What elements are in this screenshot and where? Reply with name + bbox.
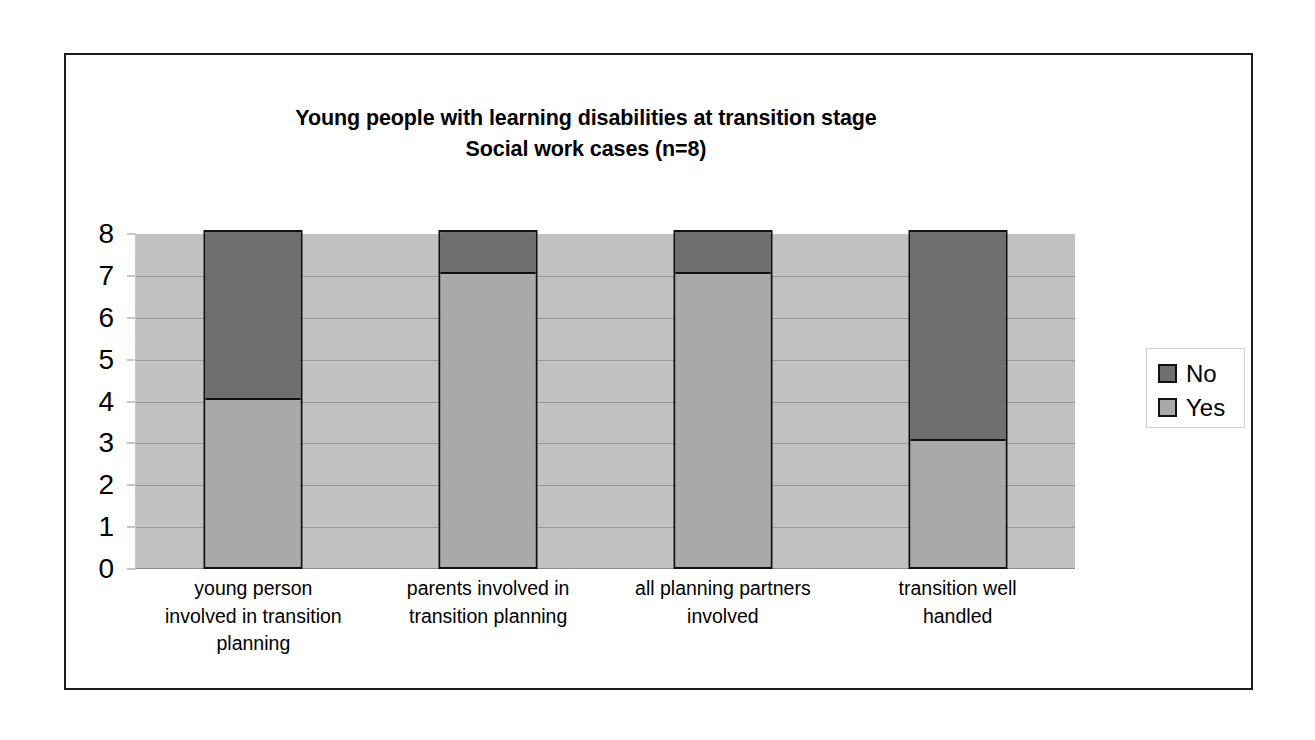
chart-title-line-1: Young people with learning disabilities …: [66, 103, 1106, 134]
x-axis-labels: young personinvolved in transitionplanni…: [136, 575, 1075, 675]
bar-slot: [136, 234, 371, 569]
legend-label: Yes: [1186, 396, 1225, 420]
x-axis-category-label-line: young person: [140, 575, 367, 603]
bar-stack[interactable]: [673, 230, 772, 569]
x-axis-category-label-line: parents involved in: [375, 575, 602, 603]
y-axis: 8 7 6 5 4 3 2 1 0: [66, 234, 136, 569]
bar-slot: [840, 234, 1075, 569]
bar-segment-yes[interactable]: [675, 274, 770, 567]
bar-segment-no[interactable]: [675, 232, 770, 274]
bar-slot: [371, 234, 606, 569]
bar-segment-no[interactable]: [206, 232, 301, 400]
y-tick-label: 0: [98, 555, 114, 583]
chart-title: Young people with learning disabilities …: [66, 103, 1106, 164]
y-tick-label: 5: [98, 346, 114, 374]
x-axis-category-label-line: involved: [610, 603, 837, 631]
bar-segment-no[interactable]: [910, 232, 1005, 441]
bars-layer: [136, 234, 1075, 569]
x-axis-category-label: transition wellhandled: [840, 575, 1075, 630]
y-tick-label: 4: [98, 388, 114, 416]
y-tick-label: 6: [98, 304, 114, 332]
bar-stack[interactable]: [439, 230, 538, 569]
bar-segment-no[interactable]: [441, 232, 536, 274]
bar-segment-yes[interactable]: [910, 441, 1005, 567]
x-axis-category-label-line: planning: [140, 630, 367, 658]
legend-swatch-yes: [1158, 398, 1177, 417]
y-tick-label: 1: [98, 513, 114, 541]
plot-area: [136, 234, 1075, 569]
x-axis-category-label-line: involved in transition: [140, 603, 367, 631]
x-axis-category-label-line: all planning partners: [610, 575, 837, 603]
x-axis-category-label: young personinvolved in transitionplanni…: [136, 575, 371, 658]
y-tick-label: 8: [98, 220, 114, 248]
legend-swatch-no: [1158, 364, 1177, 383]
bar-stack[interactable]: [908, 230, 1007, 569]
y-tick-label: 7: [98, 262, 114, 290]
bar-segment-yes[interactable]: [206, 400, 301, 568]
x-axis-category-label: parents involved intransition planning: [371, 575, 606, 630]
x-axis-category-label-line: handled: [844, 603, 1071, 631]
legend-item-no[interactable]: No: [1158, 358, 1244, 389]
bar-slot: [606, 234, 841, 569]
chart-title-line-2: Social work cases (n=8): [66, 134, 1106, 165]
legend-item-yes[interactable]: Yes: [1158, 392, 1244, 423]
legend-label: No: [1186, 362, 1217, 386]
x-axis-category-label-line: transition planning: [375, 603, 602, 631]
chart-frame: Young people with learning disabilities …: [64, 53, 1253, 690]
bar-stack[interactable]: [204, 230, 303, 569]
legend: NoYes: [1146, 348, 1245, 428]
y-tick-label: 3: [98, 429, 114, 457]
y-tick-label: 2: [98, 471, 114, 499]
bar-segment-yes[interactable]: [441, 274, 536, 567]
x-axis-category-label-line: transition well: [844, 575, 1071, 603]
x-axis-category-label: all planning partnersinvolved: [606, 575, 841, 630]
